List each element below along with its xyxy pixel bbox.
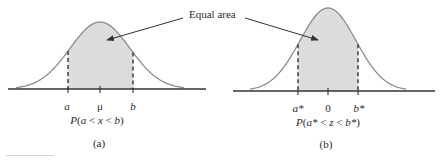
equal-area-label: Equal area bbox=[189, 8, 236, 20]
arrow-to-panel-a bbox=[107, 18, 183, 40]
figure-label-cutoff bbox=[6, 155, 54, 159]
tick-label-b-left: a* bbox=[293, 102, 305, 114]
probability-formula-b: P(a* < z < b*) bbox=[295, 116, 360, 129]
panel-a: a μ b P(a < x < b) (a) bbox=[8, 22, 206, 150]
panel-caption-b: (b) bbox=[320, 138, 333, 151]
panel-b: a* 0 b* P(a* < z < b*) (b) bbox=[233, 8, 435, 151]
shaded-area-a bbox=[68, 22, 133, 89]
tick-label-b-center: 0 bbox=[325, 102, 331, 114]
shaded-area-b bbox=[298, 8, 358, 91]
tick-label-a-center: μ bbox=[97, 100, 103, 112]
normal-distribution-diagram: a μ b P(a < x < b) (a) a* 0 b* P(a* < z … bbox=[0, 0, 441, 161]
tick-label-a-left: a bbox=[64, 100, 70, 112]
panel-caption-a: (a) bbox=[93, 137, 106, 150]
tick-label-b-right: b* bbox=[354, 102, 366, 114]
tick-label-a-right: b bbox=[130, 100, 136, 112]
probability-formula-a: P(a < x < b) bbox=[69, 114, 124, 127]
